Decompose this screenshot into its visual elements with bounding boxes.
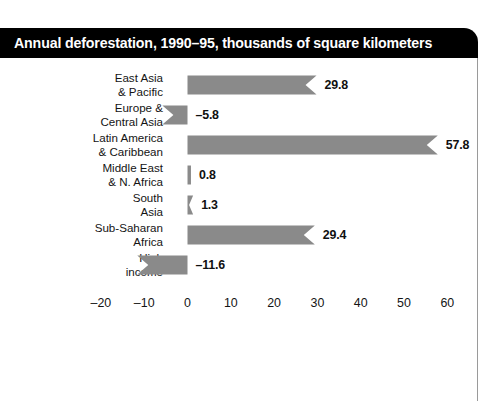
deforestation-chart-figure: Annual deforestation, 1990–95, thousands…: [0, 0, 497, 401]
bar-value-label: –5.8: [196, 108, 219, 122]
chart-title: Annual deforestation, 1990–95, thousands…: [14, 35, 432, 51]
chart-row: SouthAsia1.3: [0, 190, 478, 220]
bar-value-label: 29.8: [325, 78, 348, 92]
x-axis-tick-label: –20: [91, 296, 112, 310]
x-axis-tick-label: 40: [354, 296, 368, 310]
x-axis: –20–100102030405060: [0, 296, 478, 318]
x-axis-tick-label: 30: [310, 296, 324, 310]
chart-row: East Asia& Pacific29.8: [0, 70, 478, 100]
x-axis-tick-label: 60: [440, 296, 454, 310]
bar: [0, 190, 478, 220]
chart-title-bar: Annual deforestation, 1990–95, thousands…: [0, 28, 478, 58]
bar: [0, 220, 478, 250]
chart-row: Middle East& N. Africa0.8: [0, 160, 478, 190]
x-axis-tick-label: 10: [224, 296, 238, 310]
bar: [0, 160, 478, 190]
x-axis-tick-label: 0: [184, 296, 191, 310]
bar-value-label: 29.4: [323, 228, 346, 242]
x-axis-tick-label: 50: [397, 296, 411, 310]
chart-row: Sub-SaharanAfrica29.4: [0, 220, 478, 250]
bar: [0, 100, 478, 130]
bar-value-label: –11.6: [196, 258, 225, 272]
chart-row: Latin America& Caribbean57.8: [0, 130, 478, 160]
bar-value-label: 0.8: [199, 168, 216, 182]
bar-value-label: 57.8: [446, 138, 469, 152]
bar: [0, 250, 478, 280]
x-axis-tick-label: –10: [134, 296, 155, 310]
plot-area: East Asia& Pacific29.8Europe &Central As…: [0, 58, 478, 328]
bar-value-label: 1.3: [201, 198, 218, 212]
chart-row: Highincome–11.6: [0, 250, 478, 280]
bar: [0, 130, 478, 160]
x-axis-tick-label: 20: [267, 296, 281, 310]
bar: [0, 70, 478, 100]
chart-row: Europe &Central Asia–5.8: [0, 100, 478, 130]
